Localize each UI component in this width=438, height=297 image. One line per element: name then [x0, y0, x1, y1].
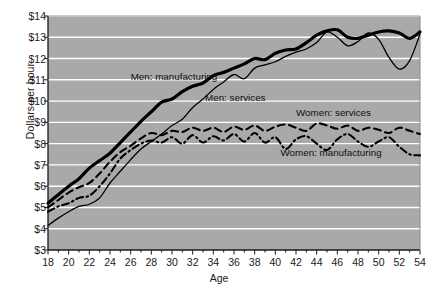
series-label-women-services: Women: services: [296, 107, 371, 118]
x-tick-label: 54: [405, 256, 435, 268]
series-label-men-manufacturing: Men: manufacturing: [131, 71, 218, 82]
y-tick-label: $7: [12, 160, 46, 170]
wage-age-line-chart: Dollars per hour $14$13$12$11$10$9$8$7$6…: [0, 0, 438, 297]
x-axis-title: Age: [0, 272, 438, 284]
y-tick-label: $14: [12, 11, 46, 21]
y-tick-label: $8: [12, 139, 46, 149]
plot-background: [48, 16, 420, 250]
y-tick-label: $3: [12, 245, 46, 255]
y-tick-label: $10: [12, 96, 46, 106]
y-axis-tick-labels: $14$13$12$11$10$9$8$7$6$5$4$3: [8, 0, 46, 297]
y-tick-label: $6: [12, 181, 46, 191]
y-tick-label: $11: [12, 75, 46, 85]
y-tick-label: $5: [12, 202, 46, 212]
y-tick-label: $13: [12, 32, 46, 42]
series-label-men-services: Men: services: [205, 92, 265, 103]
y-tick-label: $9: [12, 117, 46, 127]
y-tick-label: $4: [12, 224, 46, 234]
series-label-women-manufacturing: Women: manufacturing: [281, 147, 382, 158]
y-tick-label: $12: [12, 54, 46, 64]
